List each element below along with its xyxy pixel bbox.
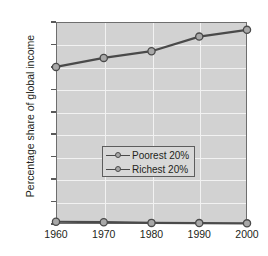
- data-point-marker: [196, 33, 203, 40]
- data-point-marker: [100, 54, 107, 61]
- legend-line-marker-icon: [106, 149, 130, 161]
- data-point-marker: [100, 219, 107, 226]
- data-point-marker: [148, 219, 155, 226]
- data-point-marker: [196, 220, 203, 227]
- series-richest-20: [52, 26, 250, 70]
- legend-label-poorest: Poorest 20%: [130, 150, 189, 161]
- data-series-layer: [0, 0, 268, 256]
- line-chart: Percentage share of global income 010203…: [0, 0, 268, 256]
- data-point-marker: [52, 63, 59, 70]
- data-point-marker: [148, 48, 155, 55]
- legend-line-marker-icon: [106, 163, 130, 175]
- data-point-marker: [52, 218, 59, 225]
- legend-item-poorest: Poorest 20%: [106, 148, 189, 162]
- legend: Poorest 20% Richest 20%: [102, 146, 195, 177]
- data-point-marker: [243, 26, 250, 33]
- data-point-marker: [243, 220, 250, 227]
- legend-item-richest: Richest 20%: [106, 162, 188, 176]
- series-poorest-20: [52, 218, 250, 227]
- legend-label-richest: Richest 20%: [130, 164, 188, 175]
